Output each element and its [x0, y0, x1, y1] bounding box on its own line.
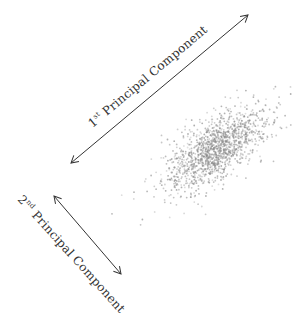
pca-diagram [0, 0, 304, 326]
